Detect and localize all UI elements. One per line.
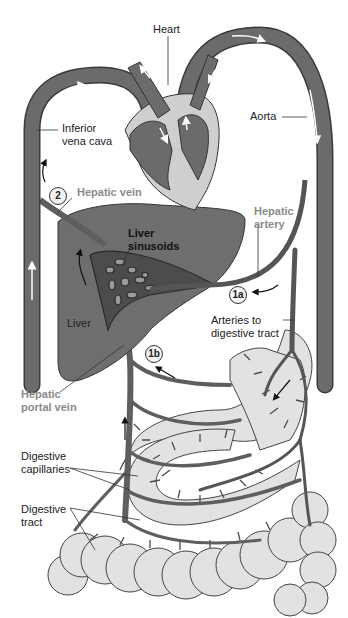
label-inferior-vena-cava-2: vena cava [62, 135, 112, 148]
label-liver-sinusoids-1: Liver [128, 227, 154, 240]
step-badge-2: 2 [49, 187, 67, 205]
label-hepatic-portal-vein-1: Hepatic [21, 388, 61, 401]
label-digestive-tract-1: Digestive [21, 503, 66, 516]
label-hepatic-artery-1: Hepatic [254, 205, 294, 218]
label-heart: Heart [153, 23, 180, 36]
label-arteries-1: Arteries to [211, 314, 261, 327]
hepatic-portal-diagram [0, 0, 348, 618]
label-liver-sinusoids-2: sinusoids [128, 240, 179, 253]
label-arteries-2: digestive tract [211, 327, 279, 340]
label-digestive-capillaries-1: Digestive [21, 450, 66, 463]
label-hepatic-portal-vein-2: portal vein [21, 401, 77, 414]
label-digestive-tract-2: tract [21, 516, 42, 529]
label-hepatic-vein: Hepatic vein [77, 186, 142, 199]
label-digestive-capillaries-2: capillaries [21, 463, 70, 476]
step-badge-1b: 1b [145, 345, 163, 363]
label-aorta: Aorta [250, 110, 276, 123]
label-hepatic-artery-2: artery [254, 218, 285, 231]
step-badge-1a: 1a [229, 286, 247, 304]
label-inferior-vena-cava-1: Inferior [62, 122, 96, 135]
label-liver: Liver [67, 317, 91, 330]
